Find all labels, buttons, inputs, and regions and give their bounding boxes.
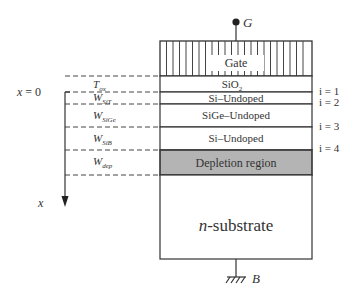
si-top-label: Si–Undoped: [209, 92, 265, 104]
si-top-layer: Si–Undoped: [160, 92, 312, 105]
gate-label: Gate: [225, 56, 248, 70]
axis-arrow-icon: [62, 196, 69, 207]
interface-labels: i = 1 i = 2 i = 3 i = 4: [319, 85, 340, 154]
interface-label-2: i = 2: [319, 96, 339, 108]
gate-terminal-dot-icon: [232, 18, 239, 25]
thickness-label-wdep: Wdep: [93, 155, 113, 170]
thickness-label-wsit: WSiT: [93, 91, 113, 106]
gate-terminal-label: G: [243, 15, 253, 30]
mosfet-cross-section-diagram: G Gate SiO2 Si–Undoped SiGe–Undo: [0, 0, 351, 298]
gate-layer: Gate: [160, 41, 312, 76]
body-terminal: B: [226, 259, 260, 286]
body-terminal-label: B: [252, 271, 260, 286]
dashed-guide-lines: [65, 76, 160, 175]
sige-layer: SiGe–Undoped: [160, 104, 312, 127]
interface-label-3: i = 3: [319, 120, 340, 132]
axis-label: x: [37, 196, 44, 210]
thickness-label-wsige: WSiGe: [93, 109, 116, 124]
sige-label: SiGe–Undoped: [202, 109, 270, 121]
si-bottom-label: Si–Undoped: [209, 132, 265, 144]
si-bottom-layer: Si–Undoped: [160, 127, 312, 150]
ground-icon: [226, 277, 246, 283]
substrate-label: n-substrate: [199, 216, 274, 235]
axis-origin-label: x = 0: [16, 85, 41, 99]
substrate-layer: n-substrate: [160, 175, 312, 259]
depletion-region-label: Depletion region: [196, 156, 277, 170]
depletion-region-layer: Depletion region: [160, 150, 312, 175]
thickness-label-wsib: WSiB: [93, 132, 113, 147]
interface-label-4: i = 4: [319, 142, 340, 154]
thickness-labels: Tox WSiT WSiGe WSiB Wdep: [93, 78, 116, 170]
gate-terminal: G: [232, 15, 253, 41]
depth-axis: x = 0 x: [16, 85, 70, 210]
oxide-layer: SiO2: [160, 76, 312, 93]
